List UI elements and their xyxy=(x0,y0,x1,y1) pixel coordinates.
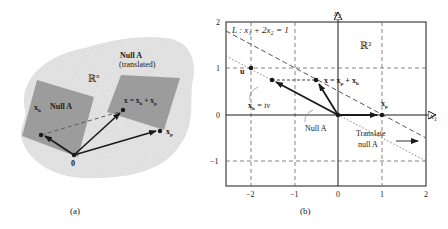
y-tick: 1 xyxy=(216,64,220,73)
x-point xyxy=(314,78,319,83)
null-a-pointer-arc xyxy=(305,110,313,122)
caption-b: (b) xyxy=(300,206,311,216)
u-label: u xyxy=(240,67,245,76)
x-tick-labels: −2 −1 0 1 2 xyxy=(246,190,428,199)
origin-label: 0 xyxy=(71,159,75,168)
panel-b: L : x₁ + 2x₂ = 1 ℝ² x2 x1 u xh = tv x = … xyxy=(210,8,437,216)
xp-point xyxy=(158,129,162,133)
line-l-label: L : x₁ + 2x₂ = 1 xyxy=(231,25,289,35)
xh-point xyxy=(270,78,275,83)
origin-point xyxy=(72,153,76,157)
xp-point xyxy=(380,113,385,118)
y-tick-labels: 2 1 0 −1 xyxy=(210,18,220,166)
y-tick: 2 xyxy=(216,18,220,27)
xh-label: xh = tv xyxy=(248,101,270,111)
x-point xyxy=(121,108,125,112)
x-tick: −1 xyxy=(290,190,299,199)
y-tick: −1 xyxy=(210,157,219,166)
x1-axis-label: x1 xyxy=(429,111,437,122)
x-tick: −2 xyxy=(246,190,255,199)
x2-axis-label: x2 xyxy=(333,8,341,19)
panel-a: ℝn Null A xh Null A (translated) x = xh … xyxy=(21,37,194,216)
origin-point xyxy=(336,113,341,118)
null-a-translated-label-line2: (translated) xyxy=(119,60,156,69)
xp-label: xp xyxy=(381,99,388,109)
caption-a: (a) xyxy=(70,206,80,216)
figure-canvas: ℝn Null A xh Null A (translated) x = xh … xyxy=(0,0,448,229)
null-a-translated-label-line1: Null A xyxy=(120,51,142,60)
y-tick: 0 xyxy=(216,111,220,120)
x-equals-label: x = xp + xh xyxy=(324,76,359,86)
null-a-label: Null A xyxy=(305,124,327,133)
x-tick: 1 xyxy=(380,190,384,199)
u-point xyxy=(249,66,254,71)
translate-label-line2: null A xyxy=(358,140,378,149)
xh-point xyxy=(39,133,43,137)
null-a-label: Null A xyxy=(50,102,72,111)
translate-label-line1: Translate xyxy=(356,129,386,138)
r2-label: ℝ² xyxy=(360,40,371,51)
x-tick: 0 xyxy=(336,190,340,199)
x-tick: 2 xyxy=(424,190,428,199)
